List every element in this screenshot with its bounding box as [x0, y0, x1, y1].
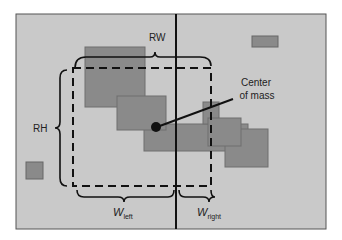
- center-of-mass-diagram: RW RH Center of mass Wleft Wright: [0, 0, 342, 240]
- center-of-mass-dot: [151, 122, 161, 132]
- center-of-mass-label-line1: Center: [241, 77, 272, 88]
- rw-label: RW: [149, 32, 166, 43]
- w-right-sub: right: [207, 213, 221, 221]
- cluster-rect-e: [208, 118, 241, 146]
- center-of-mass-label-line2: of mass: [239, 90, 274, 101]
- isolated-rect-top-right: [252, 36, 278, 47]
- w-left-sub: left: [123, 213, 132, 220]
- isolated-rect-left: [26, 162, 43, 179]
- rh-label: RH: [33, 123, 47, 134]
